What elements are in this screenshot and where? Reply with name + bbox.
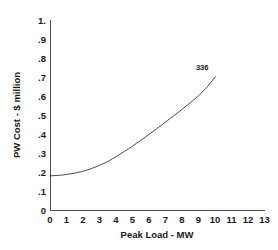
x-tick-label: 13 (259, 214, 270, 225)
x-tick-label: 0 (47, 214, 52, 225)
y-tick-label: .1 (38, 186, 47, 197)
y-axis-title: PW Cost - $ million (11, 72, 22, 158)
cost-curve (50, 77, 215, 176)
x-tick-label: 11 (226, 214, 237, 225)
x-tick-label: 10 (210, 214, 221, 225)
y-tick-label: .3 (38, 148, 46, 159)
y-tick-label: 1. (38, 15, 46, 26)
y-tick-label: .4 (38, 129, 47, 140)
curve-annotation-336: 336 (196, 63, 209, 72)
chart-page: 1. .9 .8 .7 .6 .5 .4 .3 .2 .1 0 0 1 2 3 … (0, 0, 278, 250)
y-tick-label: .9 (38, 34, 46, 45)
x-tick-label: 1 (64, 214, 70, 225)
y-tick-label: .5 (38, 110, 47, 121)
y-tick-label: .2 (38, 167, 46, 178)
y-tick-label: .7 (38, 72, 46, 83)
y-tick-label: .8 (38, 53, 46, 64)
y-tick-label: 0 (41, 205, 46, 216)
x-tick-label: 5 (130, 214, 136, 225)
line-chart: 1. .9 .8 .7 .6 .5 .4 .3 .2 .1 0 0 1 2 3 … (0, 0, 278, 250)
x-tick-label: 8 (179, 214, 184, 225)
x-tick-label: 4 (113, 214, 119, 225)
y-tick-label: .6 (38, 91, 46, 102)
x-tick-label: 9 (196, 214, 201, 225)
x-tick-label: 3 (97, 214, 102, 225)
x-tick-label: 2 (80, 214, 85, 225)
x-tick-label: 7 (163, 214, 168, 225)
x-tick-label: 12 (243, 214, 254, 225)
x-axis-title: Peak Load - MW (121, 229, 194, 240)
x-tick-label: 6 (146, 214, 151, 225)
